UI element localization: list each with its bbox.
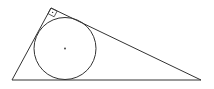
diagram-canvas <box>0 0 214 89</box>
triangle <box>12 8 201 80</box>
incenter <box>64 48 66 50</box>
right-angle-dot <box>52 12 53 13</box>
